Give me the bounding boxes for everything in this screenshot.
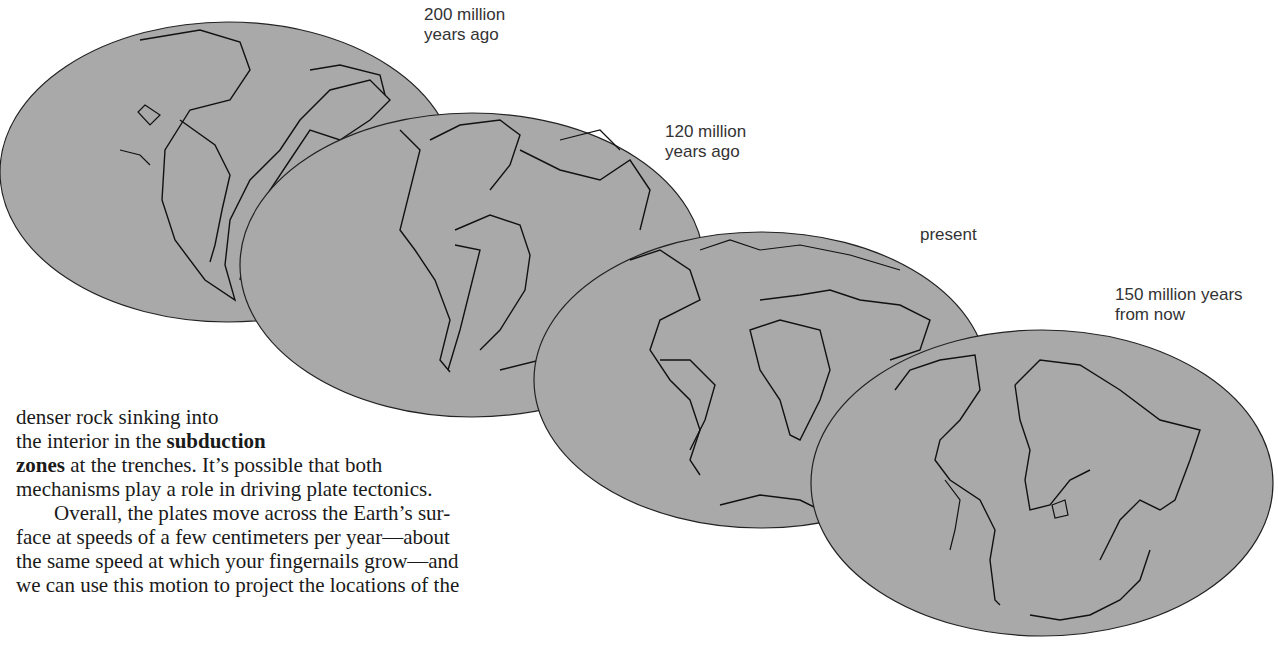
label-line: 120 million (665, 122, 746, 142)
label-150-million-years-from-now: 150 million years from now (1115, 285, 1243, 325)
label-line: 200 million (424, 5, 505, 25)
label-line: years ago (424, 25, 505, 45)
text-line: zones at the trenches. It’s possible tha… (16, 453, 576, 477)
text-span: at the trenches. It’s possible that both (65, 453, 382, 477)
label-line: from now (1115, 305, 1243, 325)
bold-term: subduction (166, 429, 265, 453)
label-120-million-years-ago: 120 million years ago (665, 122, 746, 162)
text-line: face at speeds of a few centimeters per … (16, 525, 576, 549)
text-line: the same speed at which your fingernails… (16, 549, 576, 573)
bold-term: zones (16, 453, 65, 477)
body-paragraph: denser rock sinking into the interior in… (16, 405, 576, 597)
globe-150-million-years-from-now (811, 330, 1273, 636)
label-line: 150 million years (1115, 285, 1243, 305)
text-line: mechanisms play a role in driving plate … (16, 477, 576, 501)
label-200-million-years-ago: 200 million years ago (424, 5, 505, 45)
text-line: the interior in the subduction (16, 429, 576, 453)
text-line: we can use this motion to project the lo… (16, 573, 576, 597)
text-line: Overall, the plates move across the Eart… (16, 501, 576, 525)
label-line: years ago (665, 142, 746, 162)
label-present: present (920, 225, 977, 245)
text-span: the interior in the (16, 429, 166, 453)
text-line: denser rock sinking into (16, 405, 576, 429)
label-line: present (920, 225, 977, 245)
